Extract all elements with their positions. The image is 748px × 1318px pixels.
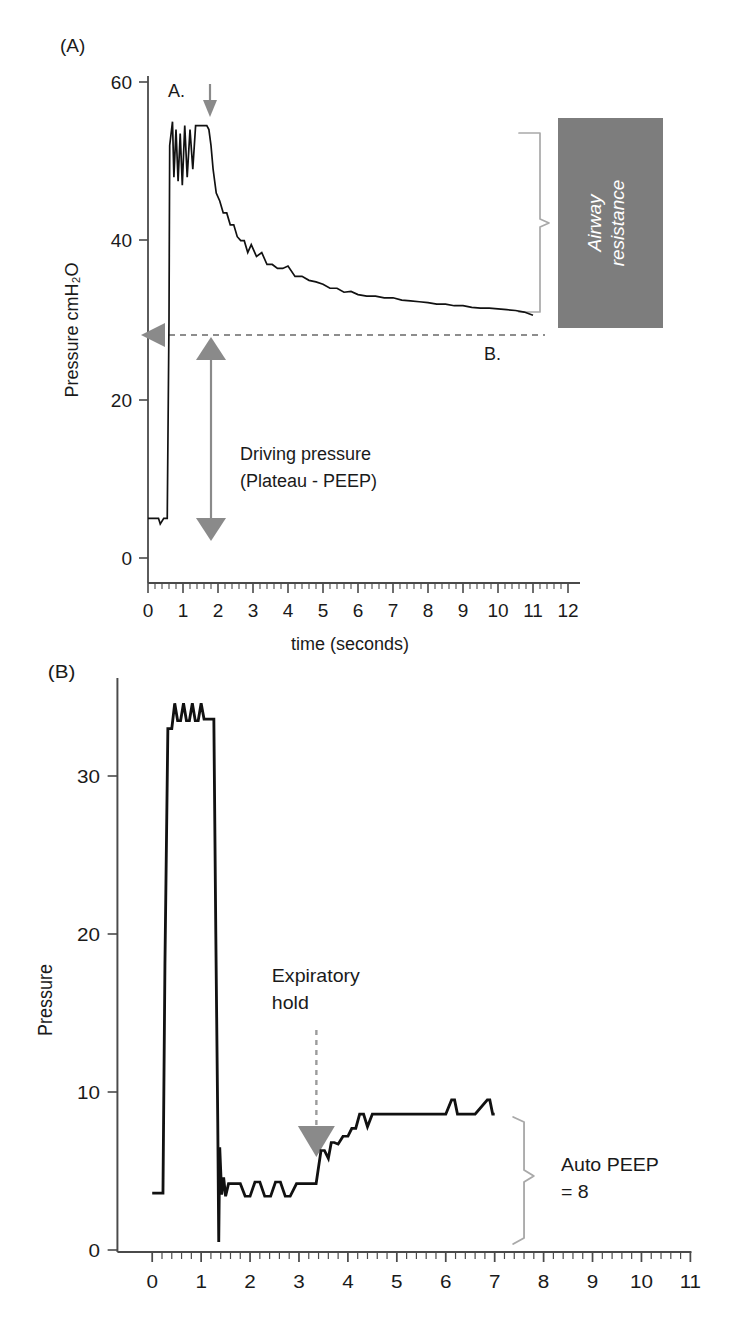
panel-a-xtick-12: 12 [557,600,578,621]
panel-b-xtick-0: 0 [146,1271,157,1292]
panel-b-x-ticks: 0 1 2 3 4 5 6 7 8 9 10 11 [146,1252,701,1292]
driving-pressure-double-arrow-icon [196,337,226,541]
panel-b-xtick-3: 3 [293,1271,304,1292]
panel-b-xtick-11: 11 [680,1271,701,1292]
expiratory-hold-label-line2: hold [272,993,309,1013]
inspiratory-hold-down-arrow-icon [203,84,217,117]
airway-resistance-box-label-line1: Airway [584,193,605,253]
panel-b-xtick-9: 9 [587,1271,598,1292]
panel-a-xtick-5: 5 [318,600,329,621]
panel-a-y-axis-title-text: Pressure cmH₂O [62,262,82,397]
panel-a-xtick-2: 2 [213,600,224,621]
airway-resistance-bracket [519,133,549,312]
panel-b-chart: (B) 0 10 20 30 [0,630,748,1318]
expiratory-hold-label-line1: Expiratory [272,966,361,986]
panel-a-container: (A) 0 20 40 60 [0,0,748,660]
panel-a-xtick-4: 4 [283,600,294,621]
panel-a-xtick-8: 8 [423,600,434,621]
panel-b-xtick-10: 10 [630,1271,653,1292]
panel-a-ytick-40: 40 [111,230,132,251]
panel-b-xtick-5: 5 [391,1271,402,1292]
panel-a-x-ticks: 0 1 2 3 4 5 6 7 8 9 10 11 12 [143,583,579,621]
panel-b-ytick-10: 10 [77,1082,100,1103]
panel-b-x-minor-ticks [162,1252,681,1259]
auto-peep-bracket [513,1117,534,1244]
panel-a-xtick-9: 9 [458,600,469,621]
panel-a-xtick-0: 0 [143,600,154,621]
panel-a-xtick-7: 7 [388,600,399,621]
auto-peep-label-line1: Auto PEEP [561,1155,659,1175]
panel-a-xtick-10: 10 [487,600,508,621]
panel-a-xtick-3: 3 [248,600,259,621]
driving-pressure-label-line1: Driving pressure [240,444,371,464]
panel-a-xtick-11: 11 [523,600,543,621]
panel-a-y-ticks: 0 20 40 60 [111,72,148,569]
panel-b-y-ticks: 0 10 20 30 [77,766,117,1261]
panel-a-ytick-60: 60 [111,72,132,93]
plateau-level-left-triangle-marker [141,323,165,347]
panel-a-letter: (A) [60,35,85,56]
panel-b-ytick-30: 30 [77,766,100,787]
panel-a-ytick-0: 0 [121,548,132,569]
airway-resistance-box-label-line2: resistance [607,180,628,267]
panel-b-xtick-2: 2 [244,1271,255,1292]
panel-b-xtick-7: 7 [489,1271,500,1292]
panel-a-ytick-20: 20 [111,390,132,411]
driving-pressure-label-line2: (Plateau - PEEP) [240,471,377,491]
marker-label-a: A. [168,81,185,101]
panel-b-ytick-20: 20 [77,924,100,945]
panel-b-y-axis-title: Pressure [34,964,56,1036]
panel-b-xtick-8: 8 [538,1271,549,1292]
panel-b-xtick-1: 1 [195,1271,206,1292]
panel-b-xtick-6: 6 [440,1271,451,1292]
marker-label-b: B. [484,344,501,364]
panel-a-xtick-1: 1 [178,600,189,621]
panel-a-xtick-6: 6 [353,600,364,621]
panel-b-xtick-4: 4 [342,1271,353,1292]
auto-peep-label-line2: = 8 [561,1182,589,1202]
panel-b-letter: (B) [48,661,76,682]
panel-a-chart: (A) 0 20 40 60 [0,0,748,660]
panel-b-container: (B) 0 10 20 30 [0,630,748,1318]
panel-b-ytick-0: 0 [89,1240,100,1261]
panel-a-y-axis-title: Pressure cmH₂O [62,262,82,397]
